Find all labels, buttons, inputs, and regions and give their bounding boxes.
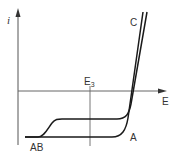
- y-axis: i: [7, 8, 21, 145]
- e3-marker: E3: [84, 76, 95, 146]
- e3-label: E3: [84, 76, 95, 88]
- y-axis-arrow-icon: [16, 8, 21, 17]
- x-axis-label: E: [162, 96, 169, 107]
- x-axis-arrow-icon: [158, 89, 167, 94]
- baseline-label: AB: [30, 142, 44, 153]
- y-axis-label: i: [7, 14, 10, 26]
- x-axis: E: [18, 89, 169, 108]
- polarization-diagram: i E E3 C A AB: [0, 0, 182, 155]
- curve-C-label: C: [130, 17, 137, 28]
- curve-A-label: A: [130, 132, 137, 143]
